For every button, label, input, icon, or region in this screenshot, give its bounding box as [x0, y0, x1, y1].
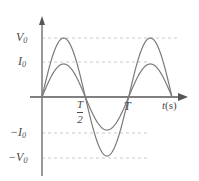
y-tick-label-neg-v0: −V0 [8, 151, 28, 165]
x-axis-arrow-icon [178, 93, 188, 101]
sine-wave-chart: V0 I0 −I0 −V0 T 2 T t(s) [0, 0, 199, 181]
x-tick-label-half-period: T 2 [77, 99, 83, 125]
y-tick-label-i0: I0 [18, 55, 26, 69]
y-axis-arrow-icon [39, 16, 45, 25]
gridline-group [42, 38, 180, 158]
y-tick-label-neg-i0: −I0 [10, 126, 26, 140]
fraction-denominator: 2 [77, 114, 83, 126]
chart-plot-area [0, 0, 199, 181]
fraction-numerator: T [77, 99, 83, 111]
x-tick-label-period: T [124, 100, 131, 112]
x-axis-title: t(s) [162, 100, 177, 111]
y-tick-label-v0: V0 [16, 31, 27, 45]
